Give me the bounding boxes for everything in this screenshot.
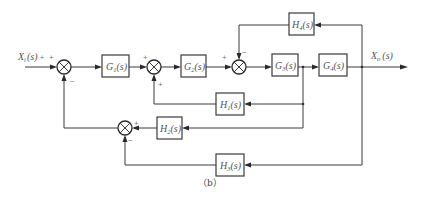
sign-s4-bottom: − (128, 136, 133, 145)
arrow-head (50, 65, 57, 70)
output-label: Xo(s) (370, 50, 394, 62)
sign-s1-left: + (49, 53, 54, 62)
arrow-head (174, 65, 181, 70)
arrow-head (152, 74, 157, 81)
arrow-head (237, 53, 242, 60)
summing-junction-s1 (57, 60, 71, 74)
svg-text:H2(s): H2(s) (159, 123, 182, 135)
sign-s3-left: + (222, 53, 227, 62)
arrow-head (312, 65, 319, 70)
arrow-head (140, 65, 147, 70)
arrow-head (314, 23, 321, 28)
block-g4: G4(s) (319, 54, 347, 76)
arrow-head (225, 65, 232, 70)
block-g1: G1(s) (102, 55, 129, 77)
block-h1: H1(s) (216, 93, 244, 115)
figure-caption: （b） (198, 178, 222, 188)
block-h3: H3(s) (216, 154, 244, 176)
output-arrow (400, 65, 408, 70)
svg-text:H3(s): H3(s) (219, 160, 242, 172)
sign-s3-top: − (242, 48, 247, 57)
arrow-head (244, 163, 251, 168)
svg-text:H4(s): H4(s) (291, 19, 314, 31)
block-diagram: + − + + + − + − G1(s) G2(s) G3(s) G4(s) … (0, 0, 422, 199)
arrow-head (62, 74, 67, 81)
arrow-head (182, 126, 189, 131)
svg-text:G3(s): G3(s) (275, 60, 297, 72)
line-h1-s2 (154, 76, 216, 104)
summing-junction-s4 (118, 121, 132, 135)
summing-junction-s3 (232, 60, 246, 74)
sign-s1-bottom: − (70, 77, 75, 86)
line-output-h3 (246, 67, 362, 165)
sign-s2-left: + (143, 53, 148, 62)
input-label: Xi(s)+ (17, 51, 44, 63)
summing-junction-s2 (147, 60, 161, 74)
arrow-head (123, 135, 128, 142)
sign-s4-right: + (134, 119, 139, 128)
block-h2: H2(s) (157, 117, 182, 139)
svg-text:G4(s): G4(s) (323, 60, 345, 72)
svg-text:H1(s): H1(s) (219, 99, 242, 111)
arrow-head (265, 65, 272, 70)
block-h4: H4(s) (289, 13, 314, 35)
arrow-head (95, 65, 102, 70)
svg-text:G2(s): G2(s) (184, 61, 206, 73)
block-g3: G3(s) (272, 54, 298, 76)
block-g2: G2(s) (181, 55, 206, 77)
line-h3-s4 (125, 137, 216, 165)
arrow-head (244, 102, 251, 107)
sign-s2-bottom: + (158, 80, 163, 89)
svg-text:G1(s): G1(s) (106, 61, 128, 73)
